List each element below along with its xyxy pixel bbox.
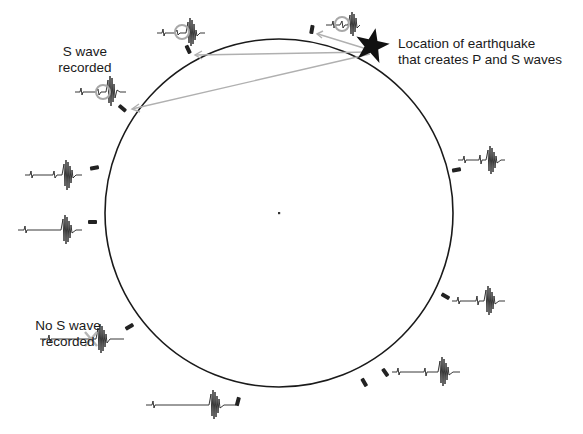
no-s-wave-label-line1: No S wave: [20, 318, 116, 334]
seismogram-right-lower: [452, 286, 505, 315]
s-wave-label-line2: recorded: [40, 60, 130, 76]
seismogram-left-lower: [18, 215, 82, 244]
seismogram-top-right: [326, 12, 360, 36]
seismogram-left-upper: [25, 160, 82, 190]
s-wave-recorded-label: S wave recorded: [40, 44, 130, 76]
s-wave-label-line1: S wave: [40, 44, 130, 60]
earthquake-label-line2: that creates P and S waves: [398, 52, 562, 68]
seismogram-upper-left: [75, 76, 126, 106]
earthquake-location-label: Location of earthquake that creates P an…: [398, 36, 562, 68]
seismogram-bottom-right: [392, 357, 460, 386]
seismogram-top-left: [157, 18, 205, 46]
earthquake-star-icon: [352, 25, 392, 64]
ray-paths: [132, 31, 370, 112]
seismogram-right-upper: [458, 146, 505, 174]
no-s-wave-label: No S wave recorded: [20, 318, 116, 350]
station-markers: [88, 25, 461, 407]
earthquake-label-line1: Location of earthquake: [398, 36, 562, 52]
seismogram-bottom: [146, 390, 236, 419]
no-s-wave-label-line2: recorded: [20, 334, 116, 350]
earth-center-dot: [278, 212, 280, 214]
